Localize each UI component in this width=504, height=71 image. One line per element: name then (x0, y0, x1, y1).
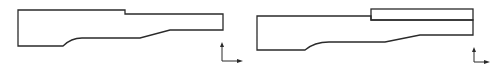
arrow-right-icon (237, 59, 243, 63)
profile-right-outline (257, 16, 473, 50)
axis-indicator-right (472, 47, 490, 64)
profile-left (18, 10, 243, 63)
arrow-up-icon (220, 42, 224, 47)
arrow-up-icon (472, 47, 476, 52)
arrow-right-icon (484, 60, 490, 64)
profile-right-top-block (371, 9, 473, 20)
axis-indicator-left (220, 42, 243, 63)
profile-right (257, 9, 490, 64)
profile-left-outline (18, 10, 223, 46)
diagram-canvas (0, 0, 504, 71)
